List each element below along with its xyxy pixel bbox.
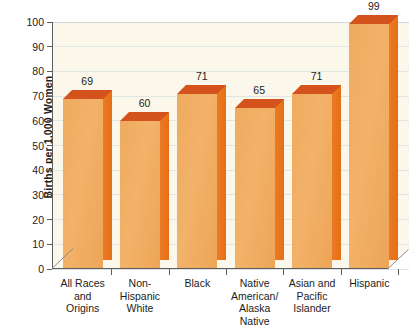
bar bbox=[63, 90, 103, 269]
bar bbox=[235, 99, 275, 269]
y-axis-tick-mark bbox=[47, 22, 52, 23]
x-axis-tick-mark bbox=[341, 269, 342, 275]
bar bbox=[292, 85, 332, 269]
x-axis-tick-mark bbox=[398, 269, 399, 275]
x-axis-tick-mark bbox=[111, 269, 112, 275]
bar-value-label: 69 bbox=[63, 75, 112, 87]
bar bbox=[120, 112, 160, 269]
y-axis-tick-mark bbox=[47, 71, 52, 72]
category-label-line: Non- bbox=[111, 277, 168, 290]
category-label-line: Black bbox=[169, 277, 226, 290]
y-axis-line bbox=[52, 22, 53, 269]
y-axis-tick-mark bbox=[47, 170, 52, 171]
y-axis-tick-mark bbox=[47, 96, 52, 97]
category-label-line: American/ bbox=[226, 290, 283, 303]
y-axis-tick-mark bbox=[47, 244, 52, 245]
y-axis-tick-mark bbox=[47, 194, 52, 195]
y-axis-tick-mark bbox=[47, 46, 52, 47]
bar-side-face bbox=[332, 85, 341, 260]
bar-front-face bbox=[177, 94, 217, 269]
bar-top-face bbox=[349, 15, 398, 24]
y-axis-tick-label: 50 bbox=[14, 140, 44, 152]
bar-side-face bbox=[275, 99, 284, 260]
x-axis-line bbox=[52, 268, 409, 269]
plot-area bbox=[52, 22, 409, 269]
category-label: Non-HispanicWhite bbox=[111, 277, 168, 315]
category-label: Black bbox=[169, 277, 226, 290]
x-axis-tick-mark bbox=[169, 269, 170, 275]
bar-front-face bbox=[120, 121, 160, 269]
y-axis-tick-label: 80 bbox=[14, 65, 44, 77]
bar bbox=[177, 85, 217, 269]
category-label-line: Hispanic bbox=[111, 290, 168, 303]
category-label: Hispanic bbox=[341, 277, 398, 290]
category-label-line: All Races bbox=[54, 277, 111, 290]
category-label: NativeAmerican/AlaskaNative bbox=[226, 277, 283, 327]
category-label-line: Native bbox=[226, 277, 283, 290]
category-label-line: Hispanic bbox=[341, 277, 398, 290]
bar-value-label: 65 bbox=[235, 84, 284, 96]
y-axis-tick-mark bbox=[47, 120, 52, 121]
y-axis-tick-label: 40 bbox=[14, 164, 44, 176]
bar-front-face bbox=[235, 108, 275, 269]
category-label-line: White bbox=[111, 302, 168, 315]
bar-front-face bbox=[292, 94, 332, 269]
x-axis-tick-mark bbox=[283, 269, 284, 275]
y-axis-tick-label: 0 bbox=[14, 263, 44, 275]
bar-top-face bbox=[177, 85, 226, 94]
bar-side-face bbox=[103, 90, 112, 260]
y-axis-tick-label: 60 bbox=[14, 115, 44, 127]
bar-value-label: 60 bbox=[120, 97, 169, 109]
bar bbox=[349, 15, 389, 269]
bar-front-face bbox=[63, 99, 103, 269]
bar-side-face bbox=[217, 85, 226, 260]
y-axis-tick-mark bbox=[47, 269, 52, 270]
category-label: Asian andPacificIslander bbox=[283, 277, 340, 315]
bar-value-label: 71 bbox=[292, 70, 341, 82]
bar-side-face bbox=[389, 15, 398, 260]
bar-value-label: 99 bbox=[349, 0, 398, 12]
bar-top-face bbox=[120, 112, 169, 121]
y-axis-tick-label: 70 bbox=[14, 90, 44, 102]
category-label-line: Native bbox=[226, 315, 283, 328]
bar-chart: Births per 1,000 Women 01020304050607080… bbox=[0, 0, 415, 334]
bar-side-face bbox=[160, 112, 169, 260]
y-axis-tick-label: 100 bbox=[14, 16, 44, 28]
category-label-line: Alaska bbox=[226, 302, 283, 315]
y-axis-tick-label: 90 bbox=[14, 41, 44, 53]
bar-value-label: 71 bbox=[177, 70, 226, 82]
category-label-line: Origins bbox=[54, 302, 111, 315]
y-axis-tick-mark bbox=[47, 219, 52, 220]
axis-depth-line bbox=[52, 248, 74, 269]
bar-top-face bbox=[292, 85, 341, 94]
category-label: All RacesandOrigins bbox=[54, 277, 111, 315]
category-label-line: Asian and bbox=[283, 277, 340, 290]
y-axis-tick-label: 10 bbox=[14, 238, 44, 250]
category-label-line: Pacific bbox=[283, 290, 340, 303]
bar-front-face bbox=[349, 24, 389, 269]
y-axis-tick-label: 20 bbox=[14, 214, 44, 226]
category-label-line: Islander bbox=[283, 302, 340, 315]
x-axis-tick-mark bbox=[226, 269, 227, 275]
bar-top-face bbox=[235, 99, 284, 108]
y-axis-tick-label: 30 bbox=[14, 189, 44, 201]
bar-top-face bbox=[63, 90, 112, 99]
category-label-line: and bbox=[54, 290, 111, 303]
y-axis-tick-mark bbox=[47, 145, 52, 146]
